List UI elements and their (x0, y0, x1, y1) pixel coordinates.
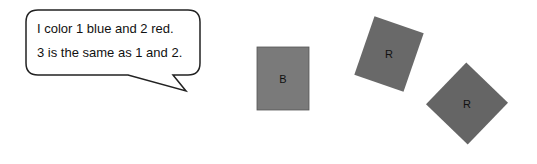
square-1-label: B (279, 73, 286, 85)
speech-bubble-line-2: 3 is the same as 1 and 2. (37, 45, 182, 60)
speech-bubble: I color 1 blue and 2 red. 3 is the same … (26, 10, 200, 91)
square-3: R (426, 62, 508, 144)
speech-bubble-line-1: I color 1 blue and 2 red. (37, 21, 174, 36)
square-3-label: R (463, 98, 471, 110)
square-1: B (257, 47, 309, 110)
diagram-canvas: I color 1 blue and 2 red. 3 is the same … (0, 0, 537, 164)
square-2: R (354, 16, 423, 92)
square-2-label: R (385, 48, 393, 60)
